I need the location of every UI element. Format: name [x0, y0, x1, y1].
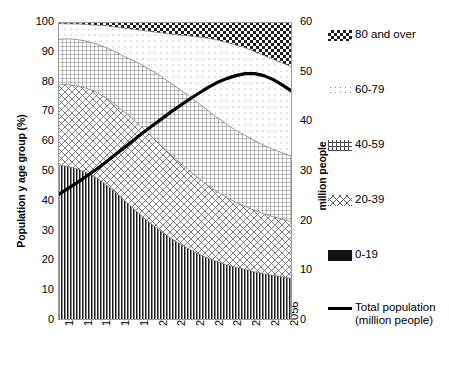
- y-axis-left-title: Population y age group (%): [15, 96, 27, 266]
- y-axis-right-tick-label: 40: [300, 114, 330, 126]
- y-axis-right-tick-label: 10: [300, 263, 330, 275]
- plot-area: [58, 22, 292, 320]
- legend-item-label: 20-39: [355, 193, 384, 206]
- legend-item-40-59[interactable]: 40-59: [328, 138, 446, 151]
- y-axis-left-tick-label: 90: [24, 45, 54, 57]
- chart-container: Population y age group (%) million peopl…: [0, 0, 449, 370]
- y-axis-right-tick-label: 0: [300, 313, 330, 325]
- legend-item-label: 40-59: [355, 138, 384, 151]
- y-axis-left-tick-label: 100: [24, 15, 54, 27]
- legend-swatch-sparse-dots-icon: [328, 85, 352, 96]
- legend-item-label: 60-79: [355, 83, 384, 96]
- legend-item-label: Total population: [355, 301, 436, 314]
- y-axis-left-tick-label: 60: [24, 134, 54, 146]
- legend-item-60-79[interactable]: 60-79: [328, 83, 446, 96]
- y-axis-right-tick-label: 20: [300, 214, 330, 226]
- y-axis-left-tick-label: 30: [24, 224, 54, 236]
- y-axis-right-tick-label: 60: [300, 15, 330, 27]
- legend-item-label: 0-19: [355, 248, 378, 261]
- chart-svg: [58, 22, 292, 320]
- y-axis-left-tick-label: 50: [24, 164, 54, 176]
- legend-item-80-and-over[interactable]: 80 and over: [328, 28, 446, 41]
- legend-swatch-solid-line-icon: [328, 303, 352, 314]
- legend-swatch-solid-black-icon: [328, 250, 352, 261]
- legend-item-20-39[interactable]: 20-39: [328, 193, 446, 206]
- legend-item-sublabel: (million people): [355, 314, 436, 327]
- legend-item-0-19[interactable]: 0-19: [328, 248, 446, 261]
- y-axis-right-tick-label: 50: [300, 65, 330, 77]
- chart-legend: 80 and over60-7940-5920-390-19Total popu…: [328, 28, 446, 327]
- legend-item-label: 80 and over: [355, 28, 416, 41]
- y-axis-left-tick-label: 0: [24, 313, 54, 325]
- y-axis-left-tick-label: 70: [24, 104, 54, 116]
- y-axis-left-tick-label: 10: [24, 283, 54, 295]
- y-axis-left-tick-label: 20: [24, 253, 54, 265]
- y-axis-left-tick-label: 80: [24, 75, 54, 87]
- y-axis-left-tick-label: 40: [24, 194, 54, 206]
- legend-item-total-population[interactable]: Total population(million people): [328, 301, 446, 327]
- legend-swatch-diagonal-crosshatch-icon: [328, 195, 352, 206]
- y-axis-right-tick-label: 30: [300, 164, 330, 176]
- legend-swatch-checkerboard-icon: [328, 30, 352, 41]
- legend-swatch-grid-crosshatch-icon: [328, 140, 352, 151]
